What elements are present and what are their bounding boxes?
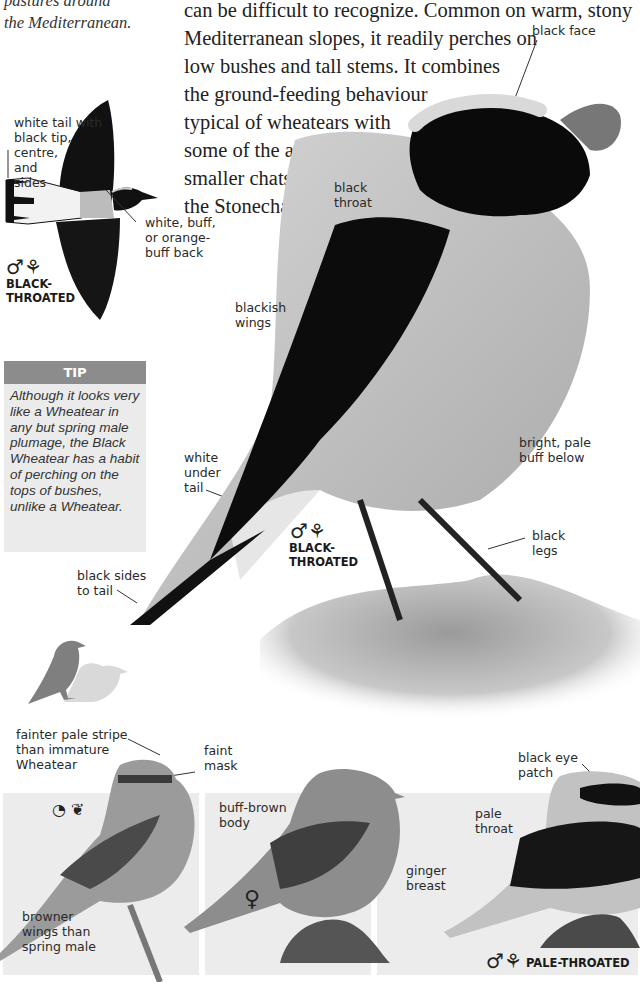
label-browner-wings: browner wings than spring male	[22, 909, 96, 954]
label-blackish-wings: blackish wings	[235, 300, 286, 330]
label-black-sides-tail: black sides to tail	[77, 568, 146, 598]
male-breeding-icon: ♂⚘	[6, 257, 42, 277]
label-fainter-stripe: fainter pale stripe than immature Wheate…	[16, 727, 128, 772]
label-black-throat: black throat	[334, 180, 372, 210]
pale-throated-bird-photo	[430, 768, 640, 958]
label-pale-throat: pale throat	[475, 806, 513, 836]
main-bird-photo	[120, 80, 640, 720]
label-buff-brown-body: buff-brown body	[219, 800, 287, 830]
male-breeding-icon: ♂⚘	[290, 521, 326, 541]
female-bird-photo	[180, 763, 410, 973]
size-comparison-icon	[24, 636, 134, 708]
label-black-eye-patch: black eye patch	[518, 750, 578, 780]
label-white-under-tail: white under tail	[184, 450, 221, 495]
sex-label-pale-throated: PALE-THROATED	[526, 956, 630, 970]
sex-label-black-throated: BLACK- THROATED	[289, 541, 358, 569]
label-tail-pattern: white tail with black tip, centre, and s…	[14, 115, 102, 190]
label-black-face: black face	[532, 23, 596, 38]
label-buff-below: bright, pale buff below	[519, 435, 591, 465]
male-breeding-icon: ♂⚘	[486, 951, 522, 971]
immature-autumn-icons: ◔ ❦	[52, 800, 84, 820]
female-icon: ♀	[244, 889, 260, 909]
sex-label-black-throated: BLACK- THROATED	[6, 277, 75, 305]
label-black-legs: black legs	[532, 528, 565, 558]
label-faint-mask: faint mask	[204, 743, 238, 773]
label-ginger-breast: ginger breast	[406, 863, 446, 893]
